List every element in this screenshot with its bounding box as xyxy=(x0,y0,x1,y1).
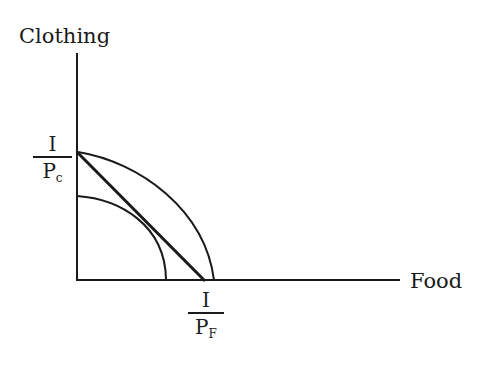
diagram-canvas xyxy=(0,0,488,373)
inner-ppf-curve xyxy=(77,196,166,279)
outer-ppf-curve xyxy=(78,152,214,280)
budget-line xyxy=(78,153,205,281)
